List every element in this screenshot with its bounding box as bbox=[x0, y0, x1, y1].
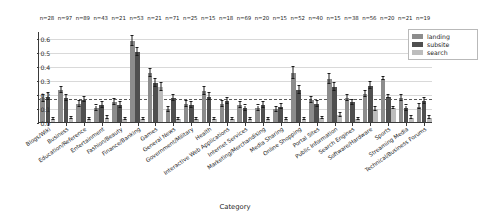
bar-search[interactable] bbox=[391, 32, 396, 122]
bar-group[interactable] bbox=[76, 32, 91, 122]
bar-search[interactable] bbox=[87, 32, 92, 122]
sample-size-label: n=97 bbox=[58, 15, 72, 21]
bar-group[interactable] bbox=[220, 32, 235, 122]
error-bar-cap-top bbox=[118, 101, 121, 102]
error-bar-cap-top bbox=[364, 90, 367, 91]
bar-search[interactable] bbox=[176, 32, 181, 122]
bar-search[interactable] bbox=[319, 32, 324, 122]
bar-group[interactable] bbox=[202, 32, 217, 122]
bar-search[interactable] bbox=[230, 32, 235, 122]
bar-landing[interactable] bbox=[220, 32, 225, 122]
bar-search[interactable] bbox=[194, 32, 199, 122]
bar-subsite[interactable] bbox=[153, 32, 158, 122]
bar-group[interactable] bbox=[237, 32, 252, 122]
bar-landing[interactable] bbox=[345, 32, 350, 122]
bar-landing[interactable] bbox=[94, 32, 99, 122]
bar-search[interactable] bbox=[373, 32, 378, 122]
bar-landing[interactable] bbox=[148, 32, 153, 122]
bar-landing[interactable] bbox=[309, 32, 314, 122]
bar-subsite[interactable] bbox=[261, 32, 266, 122]
legend-item-subsite[interactable]: subsite bbox=[412, 41, 474, 48]
bar-landing[interactable] bbox=[76, 32, 81, 122]
sample-size-label: n=15 bbox=[273, 15, 287, 21]
bar-subsite[interactable] bbox=[332, 32, 337, 122]
bar-landing[interactable] bbox=[399, 32, 404, 122]
bar-subsite[interactable] bbox=[117, 32, 122, 122]
bar-subsite[interactable] bbox=[350, 32, 355, 122]
bar-landing[interactable] bbox=[130, 32, 135, 122]
bar-search[interactable] bbox=[122, 32, 127, 122]
bar-subsite[interactable] bbox=[171, 32, 176, 122]
bar-group[interactable] bbox=[327, 32, 342, 122]
bar-landing[interactable] bbox=[166, 32, 171, 122]
bar-group[interactable] bbox=[309, 32, 324, 122]
bar-group[interactable] bbox=[148, 32, 163, 122]
legend-item-landing[interactable]: landing bbox=[412, 33, 474, 40]
bar-group[interactable] bbox=[381, 32, 396, 122]
sample-size-label: n=52 bbox=[291, 15, 305, 21]
bar-subsite[interactable] bbox=[207, 32, 212, 122]
sample-size-label: n=18 bbox=[219, 15, 233, 21]
bar-search[interactable] bbox=[51, 32, 56, 122]
bar-search[interactable] bbox=[337, 32, 342, 122]
bar-subsite[interactable] bbox=[135, 32, 140, 122]
bar-landing[interactable] bbox=[58, 32, 63, 122]
bar-landing[interactable] bbox=[381, 32, 386, 122]
bar-search[interactable] bbox=[212, 32, 217, 122]
bar-search[interactable] bbox=[69, 32, 74, 122]
bar-landing[interactable] bbox=[363, 32, 368, 122]
bar-rect bbox=[391, 108, 396, 122]
bar-subsite[interactable] bbox=[278, 32, 283, 122]
sample-size-label: n=40 bbox=[308, 15, 322, 21]
bar-landing[interactable] bbox=[255, 32, 260, 122]
bar-subsite[interactable] bbox=[314, 32, 319, 122]
sample-size-label: n=38 bbox=[344, 15, 358, 21]
bar-group[interactable] bbox=[166, 32, 181, 122]
bar-search[interactable] bbox=[248, 32, 253, 122]
bar-search[interactable] bbox=[302, 32, 307, 122]
bar-subsite[interactable] bbox=[64, 32, 69, 122]
bar-landing[interactable] bbox=[112, 32, 117, 122]
bar-group[interactable] bbox=[112, 32, 127, 122]
error-bar-cap-bottom bbox=[428, 118, 431, 119]
bar-subsite[interactable] bbox=[189, 32, 194, 122]
bar-landing[interactable] bbox=[184, 32, 189, 122]
error-bar-cap-bottom bbox=[382, 79, 385, 80]
bar-search[interactable] bbox=[140, 32, 145, 122]
error-bar-cap-bottom bbox=[320, 118, 323, 119]
bar-landing[interactable] bbox=[327, 32, 332, 122]
bar-subsite[interactable] bbox=[296, 32, 301, 122]
bar-group[interactable] bbox=[345, 32, 360, 122]
bar-search[interactable] bbox=[105, 32, 110, 122]
bar-group[interactable] bbox=[363, 32, 378, 122]
bar-rect bbox=[327, 79, 332, 122]
bar-search[interactable] bbox=[284, 32, 289, 122]
error-bar-cap-top bbox=[382, 76, 385, 77]
bar-subsite[interactable] bbox=[99, 32, 104, 122]
bar-subsite[interactable] bbox=[368, 32, 373, 122]
bar-subsite[interactable] bbox=[225, 32, 230, 122]
bar-group[interactable] bbox=[255, 32, 270, 122]
bar-search[interactable] bbox=[355, 32, 360, 122]
bar-search[interactable] bbox=[266, 32, 271, 122]
y-tick-label: 0.3 bbox=[28, 78, 50, 85]
bar-group[interactable] bbox=[94, 32, 109, 122]
bar-group[interactable] bbox=[273, 32, 288, 122]
bar-group[interactable] bbox=[58, 32, 73, 122]
error-bar-cap-bottom bbox=[364, 96, 367, 97]
bar-search[interactable] bbox=[158, 32, 163, 122]
error-bar-cap-top bbox=[149, 68, 152, 69]
bar-landing[interactable] bbox=[291, 32, 296, 122]
bar-landing[interactable] bbox=[273, 32, 278, 122]
bar-landing[interactable] bbox=[202, 32, 207, 122]
legend-item-search[interactable]: search bbox=[412, 49, 474, 56]
bar-group[interactable] bbox=[291, 32, 306, 122]
bar-rect bbox=[309, 100, 314, 122]
bar-subsite[interactable] bbox=[243, 32, 248, 122]
bar-landing[interactable] bbox=[237, 32, 242, 122]
bar-group[interactable] bbox=[130, 32, 145, 122]
bar-group[interactable] bbox=[184, 32, 199, 122]
bar-subsite[interactable] bbox=[386, 32, 391, 122]
bar-subsite[interactable] bbox=[81, 32, 86, 122]
error-bar-cap-bottom bbox=[177, 119, 180, 120]
